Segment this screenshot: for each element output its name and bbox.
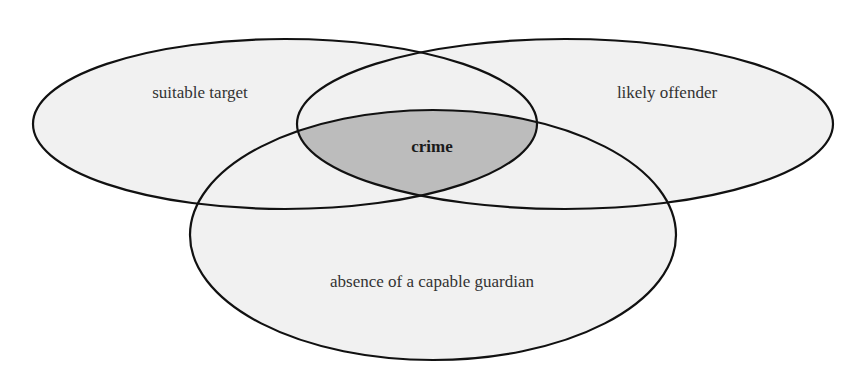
label-suitable-target: suitable target (152, 83, 248, 102)
label-absence-of-capable-guardian: absence of a capable guardian (330, 272, 534, 291)
label-likely-offender: likely offender (617, 83, 718, 102)
label-crime: crime (411, 137, 453, 156)
venn-diagram: suitable target likely offender absence … (0, 0, 861, 380)
